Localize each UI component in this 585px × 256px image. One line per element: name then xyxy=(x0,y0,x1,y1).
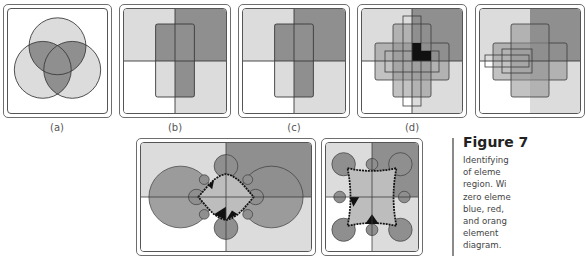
panel-d-canvas xyxy=(361,8,463,114)
cross-diagram xyxy=(362,9,462,113)
fractal-diagram xyxy=(326,143,418,251)
panel-e xyxy=(475,4,585,118)
figure-caption: Identifying of eleme region. Wi zero ele… xyxy=(463,154,533,252)
panel-b-label: (b) xyxy=(155,122,195,133)
caption-line: diagram. xyxy=(463,239,533,251)
figure-title: Figure 7 xyxy=(463,134,528,150)
panel-c xyxy=(238,4,350,118)
panel-fractal-wide-canvas xyxy=(140,142,312,252)
panel-a-label: (a) xyxy=(37,122,77,133)
nested-cross-diagram xyxy=(480,9,580,113)
venn-diagram xyxy=(8,9,107,113)
panel-fractal-square xyxy=(321,138,423,256)
panel-a-canvas xyxy=(7,8,108,114)
quadrant-diagram xyxy=(243,9,345,113)
panel-b-canvas xyxy=(123,8,227,114)
panel-c-canvas xyxy=(242,8,346,114)
panel-fractal-wide xyxy=(136,138,316,256)
fractal-diagram xyxy=(141,143,311,251)
panel-d-label: (d) xyxy=(392,122,432,133)
caption-line: zero eleme xyxy=(463,191,533,203)
caption-line: element xyxy=(463,227,533,239)
caption-line: and orang xyxy=(463,215,533,227)
panel-b xyxy=(119,4,231,118)
caption-line: Identifying xyxy=(463,154,533,166)
caption-line: blue, red, xyxy=(463,203,533,215)
caption-line: region. Wi xyxy=(463,178,533,190)
panel-a xyxy=(3,4,112,118)
caption-divider xyxy=(452,138,454,256)
panel-fractal-square-canvas xyxy=(325,142,419,252)
panel-e-canvas xyxy=(479,8,581,114)
panel-c-label: (c) xyxy=(274,122,314,133)
caption-line: of eleme xyxy=(463,166,533,178)
quadrant-diagram xyxy=(124,9,226,113)
panel-d xyxy=(357,4,467,118)
